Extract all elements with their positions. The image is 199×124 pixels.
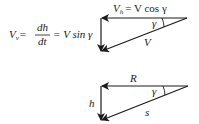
svg-text:= V sin γ: = V sin γ xyxy=(53,28,93,40)
angle-label: γ xyxy=(152,17,157,29)
angle-arc xyxy=(162,18,164,27)
angle-arc xyxy=(163,86,165,95)
top-velocity-triangle: Vh= V cos γ γ V Vv= dh dt = V sin γ xyxy=(9,2,187,51)
angle-label: γ xyxy=(152,85,157,97)
svg-text:dt: dt xyxy=(38,35,48,47)
horizontal-velocity-label: Vh= V cos γ xyxy=(113,2,167,16)
svg-text:dh: dh xyxy=(37,21,49,33)
range-label: R xyxy=(129,72,137,84)
distance-label: s xyxy=(145,106,149,118)
bottom-distance-triangle: R h γ s xyxy=(89,72,188,120)
hypotenuse-label: V xyxy=(144,36,152,48)
velocity-triangles-diagram: Vh= V cos γ γ V Vv= dh dt = V sin γ R h … xyxy=(0,0,199,124)
vertical-velocity-equation: Vv= dh dt = V sin γ xyxy=(9,21,93,47)
height-label: h xyxy=(89,97,95,109)
svg-text:Vv=: Vv= xyxy=(9,28,26,42)
